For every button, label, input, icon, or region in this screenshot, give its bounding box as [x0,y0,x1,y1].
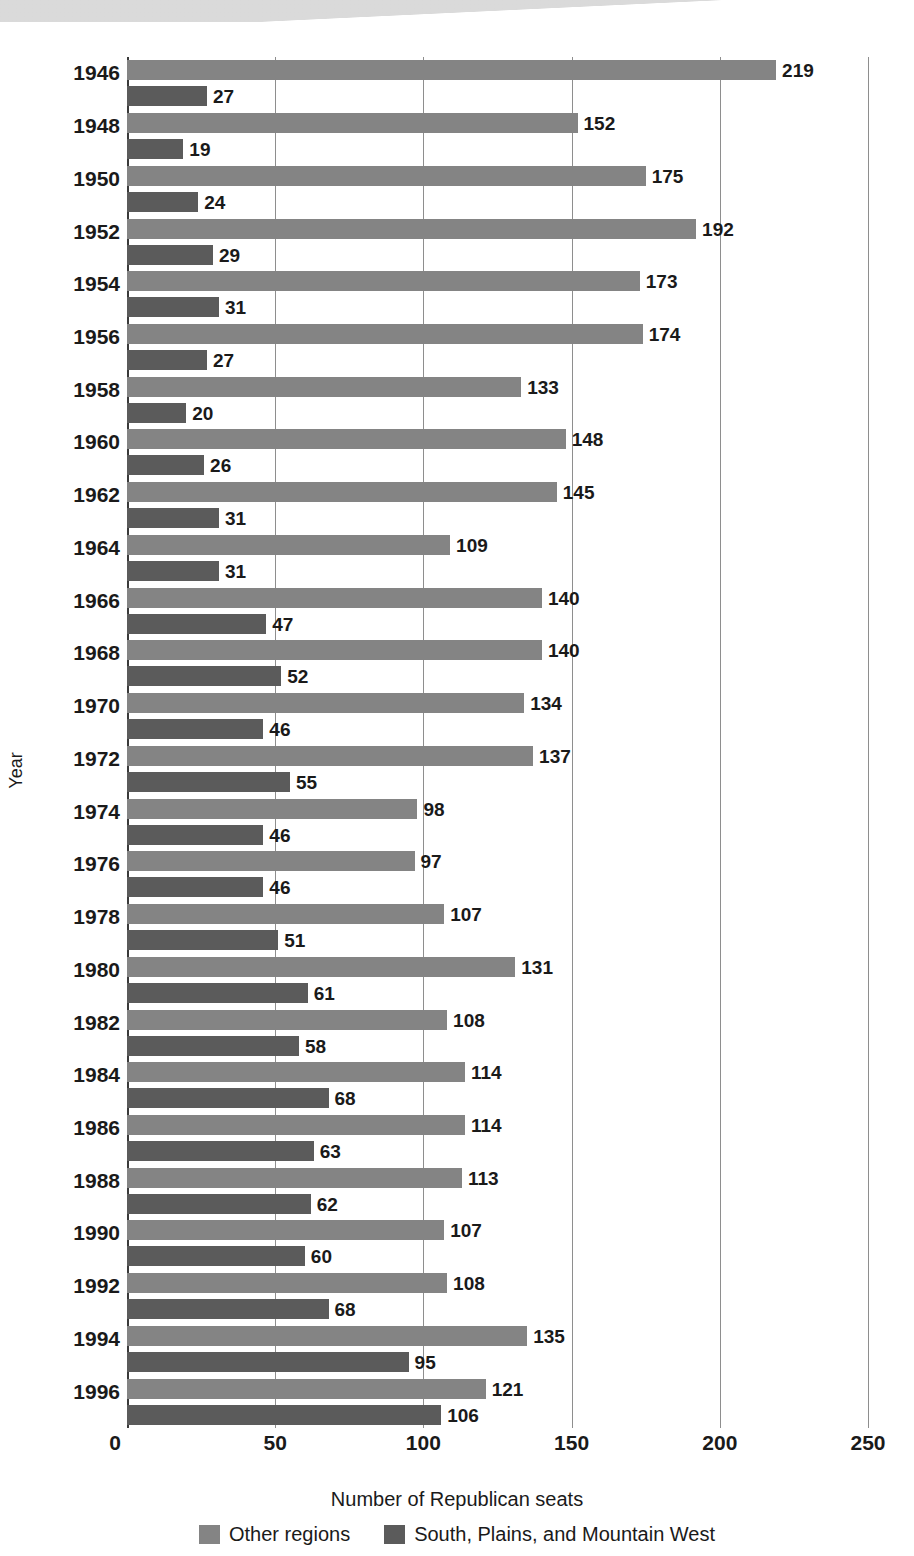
year-label-1978: 1978 [73,906,120,927]
bar-group-1956: 195617427 [127,324,868,370]
year-label-1976: 1976 [73,853,120,874]
bar-value-label: 108 [453,1274,485,1293]
bar-group-1964: 196410931 [127,535,868,581]
bar-1954-south-plains-mountain-west: 31 [127,297,219,317]
bar-value-label: 148 [572,430,604,449]
bar-value-label: 97 [421,852,442,871]
bar-1964-other-regions: 109 [127,535,450,555]
legend-label-south-plains-mountain-west: South, Plains, and Mountain West [414,1524,715,1544]
bar-value-label: 68 [335,1300,356,1319]
bar-1972-south-plains-mountain-west: 55 [127,772,290,792]
year-label-1962: 1962 [73,484,120,505]
bar-value-label: 29 [219,245,240,264]
bar-1950-other-regions: 175 [127,166,646,186]
bar-value-label: 134 [530,694,562,713]
bar-1992-other-regions: 108 [127,1273,447,1293]
bar-value-label: 140 [548,641,580,660]
legend-item-other-regions: Other regions [199,1524,350,1544]
bar-value-label: 24 [204,192,225,211]
bar-value-label: 68 [335,1089,356,1108]
bar-value-label: 121 [492,1379,524,1398]
bar-1980-south-plains-mountain-west: 61 [127,983,308,1003]
bar-1962-south-plains-mountain-west: 31 [127,508,219,528]
bar-1954-other-regions: 173 [127,271,640,291]
bar-1982-other-regions: 108 [127,1010,447,1030]
bar-group-1960: 196014826 [127,429,868,475]
year-label-1946: 1946 [73,62,120,83]
year-label-1986: 1986 [73,1116,120,1137]
bar-group-1990: 199010760 [127,1220,868,1266]
bar-1972-other-regions: 137 [127,746,533,766]
bar-group-1950: 195017524 [127,166,868,212]
bar-group-1984: 198411468 [127,1062,868,1108]
bar-1978-other-regions: 107 [127,904,444,924]
bar-1968-other-regions: 140 [127,640,542,660]
bar-1980-other-regions: 131 [127,957,515,977]
bar-value-label: 46 [269,878,290,897]
x-tick-label-250: 250 [850,1432,885,1453]
bar-group-1982: 198210858 [127,1010,868,1056]
x-tick-label-200: 200 [702,1432,737,1453]
bar-value-label: 114 [471,1063,502,1082]
legend-swatch-south-plains-mountain-west [384,1525,405,1544]
year-label-1966: 1966 [73,589,120,610]
bar-value-label: 106 [447,1405,479,1424]
bar-group-1986: 198611463 [127,1115,868,1161]
bar-value-label: 58 [305,1036,326,1055]
bar-value-label: 109 [456,535,488,554]
bar-1958-south-plains-mountain-west: 20 [127,403,186,423]
bar-1970-other-regions: 134 [127,693,524,713]
bar-1960-south-plains-mountain-west: 26 [127,455,204,475]
bar-1946-other-regions: 219 [127,60,776,80]
bar-value-label: 174 [649,325,681,344]
bar-value-label: 51 [284,931,305,950]
year-label-1992: 1992 [73,1275,120,1296]
bar-value-label: 192 [702,219,734,238]
bar-value-label: 135 [533,1326,565,1345]
year-label-1964: 1964 [73,536,120,557]
bar-1960-other-regions: 148 [127,429,566,449]
bar-value-label: 20 [192,403,213,422]
bar-value-label: 152 [584,114,616,133]
bar-1966-other-regions: 140 [127,588,542,608]
bar-1966-south-plains-mountain-west: 47 [127,614,266,634]
x-tick-label-100: 100 [406,1432,441,1453]
bar-group-1970: 197013446 [127,693,868,739]
bar-value-label: 219 [782,61,814,80]
bar-group-1976: 19769746 [127,851,868,897]
bar-group-1946: 194621927 [127,60,868,106]
x-tick-label-0: 0 [109,1432,121,1453]
bar-group-1978: 197810751 [127,904,868,950]
bar-1946-south-plains-mountain-west: 27 [127,86,207,106]
bar-value-label: 52 [287,667,308,686]
bar-value-label: 27 [213,351,234,370]
bar-group-1966: 196614047 [127,588,868,634]
republican-seats-bar-chart: Year 19462192719481521919501752419521922… [0,0,914,1556]
legend-item-south-plains-mountain-west: South, Plains, and Mountain West [384,1524,715,1544]
year-label-1988: 1988 [73,1169,120,1190]
bar-1970-south-plains-mountain-west: 46 [127,719,263,739]
bar-1962-other-regions: 145 [127,482,557,502]
bar-1984-south-plains-mountain-west: 68 [127,1088,329,1108]
bar-1978-south-plains-mountain-west: 51 [127,930,278,950]
bar-1956-south-plains-mountain-west: 27 [127,350,207,370]
year-label-1974: 1974 [73,800,120,821]
bar-1974-other-regions: 98 [127,799,417,819]
year-label-1970: 1970 [73,695,120,716]
bar-value-label: 114 [471,1115,502,1134]
bar-value-label: 31 [225,298,246,317]
bar-1948-other-regions: 152 [127,113,578,133]
bar-1974-south-plains-mountain-west: 46 [127,825,263,845]
bar-group-1974: 19749846 [127,799,868,845]
bar-value-label: 137 [539,746,571,765]
bar-1976-south-plains-mountain-west: 46 [127,877,263,897]
bar-1964-south-plains-mountain-west: 31 [127,561,219,581]
year-label-1950: 1950 [73,167,120,188]
bar-value-label: 55 [296,772,317,791]
bar-group-1980: 198013161 [127,957,868,1003]
bar-value-label: 175 [652,166,684,185]
bar-group-1972: 197213755 [127,746,868,792]
bar-1952-other-regions: 192 [127,219,696,239]
bar-1994-south-plains-mountain-west: 95 [127,1352,409,1372]
bar-1984-other-regions: 114 [127,1062,465,1082]
